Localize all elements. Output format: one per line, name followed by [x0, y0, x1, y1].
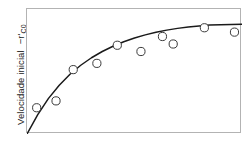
y-axis-label-symbol: −r'	[15, 33, 26, 44]
y-axis-label-main: Velocidade inicial	[15, 50, 26, 125]
data-point-markers	[33, 24, 239, 112]
fitted-curve	[27, 24, 242, 134]
data-point-marker	[33, 104, 41, 112]
data-point-marker	[158, 32, 166, 40]
data-point-marker	[113, 41, 121, 49]
figure-container: Velocidade inicial−r'C0	[0, 0, 248, 145]
data-point-marker	[230, 28, 238, 36]
data-point-marker	[69, 66, 77, 74]
y-axis-label-area: Velocidade inicial−r'C0	[0, 0, 26, 145]
fitted-curve-group	[27, 24, 242, 134]
data-point-marker	[52, 97, 60, 105]
data-point-marker	[93, 59, 101, 67]
plot-frame	[26, 8, 241, 133]
data-point-marker	[200, 24, 208, 32]
plot-canvas	[27, 9, 242, 134]
data-point-marker	[137, 47, 145, 55]
data-point-marker	[169, 40, 177, 48]
